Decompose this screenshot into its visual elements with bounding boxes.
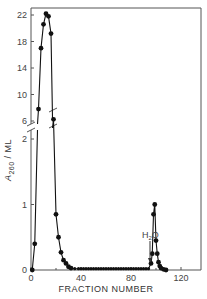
svg-text:1: 1: [22, 200, 27, 210]
svg-text:40: 40: [76, 273, 86, 283]
svg-text:0: 0: [28, 273, 33, 283]
plot-frame: [31, 8, 201, 270]
x-axis-label: FRACTION NUMBER: [59, 284, 154, 294]
svg-text:80: 80: [126, 273, 136, 283]
svg-text:6: 6: [22, 116, 27, 126]
chart: 04080120610141822012 H2O FRACTION NUMBER…: [0, 0, 207, 299]
svg-text:14: 14: [17, 63, 27, 73]
svg-text:10: 10: [17, 90, 27, 100]
svg-text:120: 120: [173, 273, 188, 283]
svg-text:0: 0: [22, 265, 27, 275]
y-axis-label: A260 / ML: [3, 139, 15, 182]
axis-tick-labels: 04080120610141822012: [17, 10, 189, 283]
svg-text:2: 2: [22, 134, 27, 144]
svg-text:H2O: H2O: [142, 230, 159, 241]
svg-text:22: 22: [17, 10, 27, 20]
svg-text:18: 18: [17, 37, 27, 47]
